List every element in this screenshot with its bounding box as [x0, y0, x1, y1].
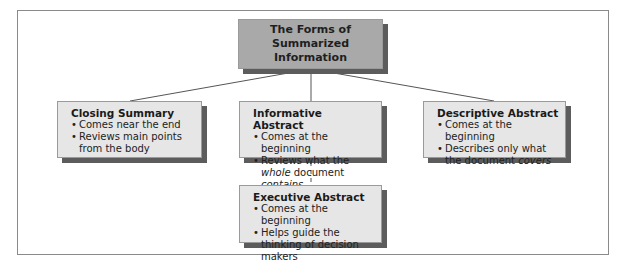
edge-root-descriptive-abstract — [311, 69, 494, 101]
node-descriptive-abstract: Descriptive Abstract Comes at the beginn… — [423, 101, 566, 158]
bullet-item: Comes at the beginning — [253, 203, 375, 227]
bullet-list: Comes at the beginning Reviews what the … — [253, 131, 375, 191]
bullet-list: Comes at the beginning Describes only wh… — [437, 119, 559, 167]
bullet-item: Helps guide the thinking of decision mak… — [253, 227, 375, 263]
node-informative-abstract: Informative Abstract Comes at the beginn… — [239, 101, 382, 158]
node-title: Closing Summary — [71, 107, 195, 119]
bullet-item: Comes near the end — [71, 119, 195, 131]
node-executive-abstract: Executive Abstract Comes at the beginnin… — [239, 185, 382, 243]
bullet-item: Comes at the beginning — [437, 119, 559, 143]
bullet-item: Comes at the beginning — [253, 131, 375, 155]
bullet-list: Comes at the beginning Helps guide the t… — [253, 203, 375, 263]
bullet-list: Comes near the end Reviews main points f… — [71, 119, 195, 155]
root-node-title: The Forms of Summarized Information — [239, 23, 382, 65]
bullet-item: Reviews main points from the body — [71, 131, 195, 155]
root-node-box: The Forms of Summarized Information — [238, 19, 383, 69]
edge-root-closing-summary — [130, 69, 311, 101]
node-title: Executive Abstract — [253, 191, 375, 203]
node-closing-summary: Closing Summary Comes near the end Revie… — [57, 101, 202, 158]
bullet-item: Describes only what the document covers — [437, 143, 559, 167]
node-title: Informative Abstract — [253, 107, 375, 131]
node-title: Descriptive Abstract — [437, 107, 559, 119]
